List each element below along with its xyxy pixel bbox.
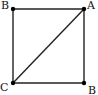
diagonal-ca (13, 9, 84, 83)
square-edges (13, 9, 84, 83)
label-bottom-left: C (0, 81, 8, 94)
point-bottom-left (11, 81, 15, 85)
point-top-left (11, 7, 15, 11)
square-diagram: B A C B (0, 0, 98, 95)
point-top-right (82, 7, 86, 11)
label-bottom-right: B (88, 84, 96, 95)
label-top-right: A (86, 0, 96, 12)
point-bottom-right (82, 81, 86, 85)
label-top-left: B (1, 0, 9, 12)
